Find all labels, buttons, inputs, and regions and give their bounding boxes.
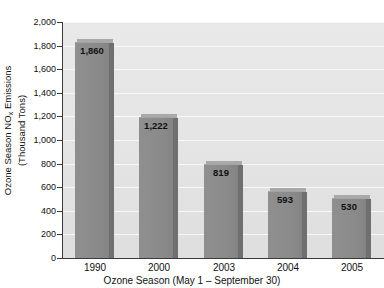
bar: 593 [268, 188, 307, 258]
y-axis-tick-mark [57, 22, 62, 23]
x-axis-title: Ozone Season (May 1 – September 30) [0, 275, 384, 286]
y-axis-tick-label: 0 [16, 254, 56, 263]
bar-value-label: 1,222 [139, 121, 173, 131]
y-axis-spine [62, 22, 63, 259]
x-axis-tick-label: 1990 [65, 262, 125, 273]
bar: 530 [332, 195, 371, 258]
bar: 1,222 [139, 114, 178, 258]
bar-value-label: 1,860 [75, 46, 109, 56]
clipped-title-text: ........ [196, 0, 226, 1]
x-axis-tick-label: 2004 [258, 262, 318, 273]
x-axis-spine [62, 258, 384, 259]
bar-value-label: 819 [204, 168, 238, 178]
bar-chart-figure: ........ 1,8601,222819593530 02004006008… [0, 0, 384, 288]
y-axis-tick-mark [57, 258, 62, 259]
bar-side-face [109, 43, 114, 258]
bar-side-face [302, 192, 307, 258]
x-axis-tick-label: 2003 [194, 262, 254, 273]
bar-value-label: 530 [332, 202, 366, 212]
x-axis-tick-label: 2005 [322, 262, 382, 273]
bar-front-face [75, 42, 109, 258]
bar-front-face [139, 117, 173, 258]
bar-side-face [173, 118, 178, 258]
bar-front-face [204, 164, 238, 258]
y-axis-tick-mark [57, 211, 62, 212]
gridline [63, 22, 384, 23]
bar-side-face [238, 165, 243, 258]
x-axis-tick-label: 2000 [129, 262, 189, 273]
y-axis-title-prefix: Ozone Season NO [2, 115, 13, 195]
y-axis-title-subscript: x [6, 112, 15, 116]
y-axis-title-line-1: Ozone Season NOx Emissions [2, 66, 13, 195]
y-axis-title: Ozone Season NOx Emissions (Thousand Ton… [2, 13, 27, 249]
plot-area: 1,8601,222819593530 [63, 22, 384, 258]
bar-side-face [366, 199, 371, 258]
y-axis-tick-mark [57, 116, 62, 117]
y-axis-title-suffix: Emissions [2, 66, 13, 112]
y-axis-tick-mark [57, 140, 62, 141]
y-axis-tick-mark [57, 187, 62, 188]
y-axis-tick-mark [57, 234, 62, 235]
y-axis-tick-mark [57, 69, 62, 70]
y-axis-tick-mark [57, 46, 62, 47]
y-axis-title-line-2: (Thousand Tons) [16, 13, 27, 249]
y-axis-tick-mark [57, 93, 62, 94]
clipped-title-fragment: ........ [0, 0, 384, 5]
bar: 819 [204, 161, 243, 258]
y-axis-tick-mark [57, 164, 62, 165]
bar: 1,860 [75, 39, 114, 258]
bar-value-label: 593 [268, 195, 302, 205]
